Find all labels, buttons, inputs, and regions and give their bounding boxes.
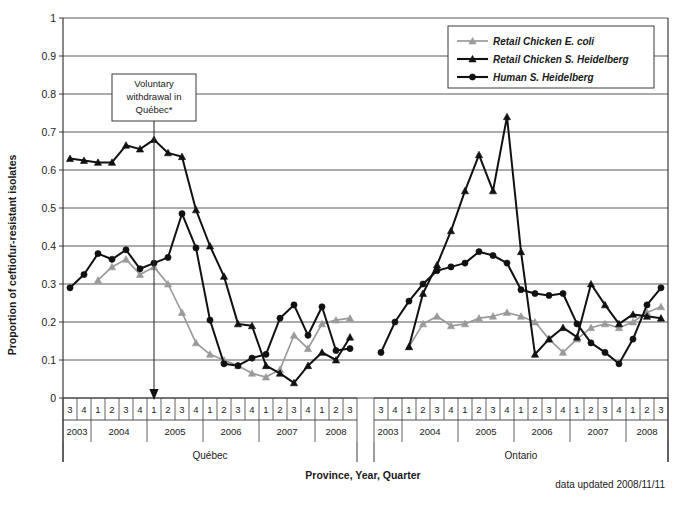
data-point-marker <box>137 266 143 272</box>
quarter-label: 3 <box>123 404 128 415</box>
y-tick-label: 0.5 <box>41 202 56 214</box>
quarter-label: 1 <box>462 404 467 415</box>
quarter-label: 2 <box>221 404 226 415</box>
quarter-label: 1 <box>263 404 268 415</box>
quarter-label: 4 <box>504 404 509 415</box>
y-tick-label: 1 <box>50 12 56 24</box>
annotation-text-line: withdrawal in <box>126 91 182 102</box>
quarter-label: 3 <box>658 404 663 415</box>
quarter-label: 2 <box>476 404 481 415</box>
data-point-marker <box>462 260 468 266</box>
quarter-label: 1 <box>151 404 156 415</box>
quarter-label: 3 <box>235 404 240 415</box>
quarter-label: 3 <box>490 404 495 415</box>
data-point-marker <box>165 254 171 260</box>
quarter-label: 2 <box>333 404 338 415</box>
chart-legend: Retail Chicken E. coliRetail Chicken S. … <box>448 26 654 88</box>
province-label: Ontario <box>505 450 538 461</box>
quarter-label: 2 <box>420 404 425 415</box>
x-axis-title: Province, Year, Quarter <box>305 469 420 481</box>
quarter-label: 3 <box>179 404 184 415</box>
data-point-marker <box>263 351 269 357</box>
quarter-label: 2 <box>532 404 537 415</box>
quarter-label: 4 <box>193 404 198 415</box>
quarter-label: 3 <box>546 404 551 415</box>
year-label: 2007 <box>587 426 608 437</box>
data-point-marker <box>476 249 482 255</box>
data-point-marker <box>546 292 552 298</box>
y-tick-label: 0.2 <box>41 316 56 328</box>
y-tick-label: 0 <box>50 392 56 404</box>
data-point-marker <box>67 285 73 291</box>
quarter-label: 4 <box>560 404 565 415</box>
data-point-marker <box>504 260 510 266</box>
data-point-marker <box>95 251 101 257</box>
data-point-marker <box>392 319 398 325</box>
data-point-marker <box>305 332 311 338</box>
quarter-label: 4 <box>392 404 397 415</box>
data-point-marker <box>333 347 339 353</box>
annotation-text-line: Québec* <box>136 104 173 115</box>
data-point-marker <box>406 298 412 304</box>
quarter-label: 3 <box>67 404 72 415</box>
quarter-label: 1 <box>630 404 635 415</box>
data-point-marker <box>235 363 241 369</box>
year-label: 2004 <box>108 426 129 437</box>
data-point-marker <box>221 361 227 367</box>
quarter-label: 4 <box>616 404 621 415</box>
y-tick-label: 0.9 <box>41 50 56 62</box>
year-label: 2006 <box>220 426 241 437</box>
legend-label: Human S. Heidelberg <box>493 72 594 83</box>
year-label: 2006 <box>531 426 552 437</box>
quarter-label: 2 <box>165 404 170 415</box>
legend-label: Retail Chicken S. Heidelberg <box>493 54 629 65</box>
data-point-marker <box>448 264 454 270</box>
quarter-label: 2 <box>644 404 649 415</box>
data-point-marker <box>574 321 580 327</box>
chart-container: 00.10.20.30.40.50.60.70.80.91 3412341234… <box>0 0 676 506</box>
quarter-label: 3 <box>347 404 352 415</box>
year-label: 2008 <box>636 426 657 437</box>
data-point-marker <box>123 247 129 253</box>
year-label: 2003 <box>66 426 87 437</box>
quarter-label: 2 <box>109 404 114 415</box>
quarter-label: 1 <box>95 404 100 415</box>
ceftiofur-resistance-chart: 00.10.20.30.40.50.60.70.80.91 3412341234… <box>0 0 676 506</box>
quarter-label: 3 <box>378 404 383 415</box>
quarter-label: 3 <box>602 404 607 415</box>
data-point-marker <box>518 287 524 293</box>
data-point-marker <box>644 302 650 308</box>
data-point-marker <box>658 285 664 291</box>
data-point-marker <box>616 361 622 367</box>
data-point-marker <box>630 336 636 342</box>
data-point-marker <box>319 304 325 310</box>
y-tick-label: 0.1 <box>41 354 56 366</box>
data-point-marker <box>378 349 384 355</box>
data-point-marker <box>277 315 283 321</box>
data-point-marker <box>420 281 426 287</box>
quarter-label: 4 <box>448 404 453 415</box>
data-point-marker <box>469 74 475 80</box>
quarter-label: 2 <box>277 404 282 415</box>
y-tick-label: 0.7 <box>41 126 56 138</box>
data-point-marker <box>560 290 566 296</box>
y-tick-label: 0.6 <box>41 164 56 176</box>
quarter-label: 2 <box>588 404 593 415</box>
data-point-marker <box>490 252 496 258</box>
quarter-label: 1 <box>406 404 411 415</box>
year-label: 2007 <box>276 426 297 437</box>
data-point-marker <box>249 355 255 361</box>
data-point-marker <box>347 346 353 352</box>
data-point-marker <box>109 256 115 262</box>
data-updated-note: data updated 2008/11/11 <box>555 479 665 490</box>
quarter-label: 1 <box>207 404 212 415</box>
year-label: 2005 <box>475 426 496 437</box>
quarter-label: 4 <box>81 404 86 415</box>
quarter-label: 3 <box>434 404 439 415</box>
data-point-marker <box>207 317 213 323</box>
quarter-label: 3 <box>291 404 296 415</box>
quarter-label: 1 <box>518 404 523 415</box>
y-tick-label: 0.3 <box>41 278 56 290</box>
year-label: 2004 <box>419 426 440 437</box>
data-point-marker <box>588 340 594 346</box>
